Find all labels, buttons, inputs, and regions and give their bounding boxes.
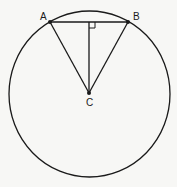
right-angle-marker [89,22,95,28]
circle-chord-diagram: A B C [0,0,177,187]
radius-ac [50,22,89,93]
point-b [126,20,130,24]
label-c: C [86,97,93,108]
point-a [48,20,52,24]
label-a: A [40,11,47,22]
radius-bc [89,22,128,93]
label-b: B [133,11,140,22]
point-c [87,91,91,95]
